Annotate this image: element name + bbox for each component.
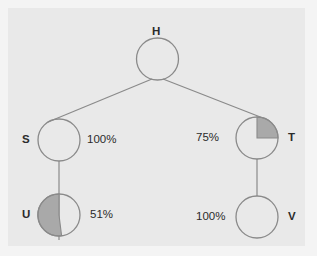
node-label-u: U <box>22 209 31 221</box>
node-s[interactable] <box>38 119 80 161</box>
percent-label-t: 75% <box>196 132 219 144</box>
node-label-v: V <box>288 211 296 223</box>
node-t[interactable] <box>236 117 278 159</box>
node-v[interactable] <box>236 196 278 238</box>
node-u-fill-sector <box>38 194 62 236</box>
diagram-root: H S T U V 100% 75% 51% 100% <box>0 0 317 256</box>
percent-label-u: 51% <box>90 209 113 221</box>
node-h-circle <box>137 38 179 80</box>
percent-label-s: 100% <box>87 134 116 146</box>
node-h[interactable] <box>137 38 179 80</box>
edge-h-t <box>163 79 268 120</box>
edge-h-s <box>48 79 152 122</box>
node-label-h: H <box>152 26 161 38</box>
tree-diagram-canvas <box>0 0 317 256</box>
node-u[interactable] <box>38 194 80 236</box>
edge-group <box>48 79 268 240</box>
node-label-t: T <box>288 132 295 144</box>
percent-label-v: 100% <box>196 211 225 223</box>
node-label-s: S <box>22 134 30 146</box>
node-s-circle <box>38 119 80 161</box>
node-v-circle <box>236 196 278 238</box>
